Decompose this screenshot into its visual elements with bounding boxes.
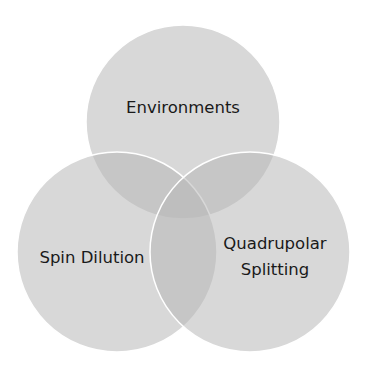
label-splitting: Splitting: [241, 260, 310, 279]
venn-diagram: Environments Spin Dilution Quadrupolar S…: [0, 0, 367, 370]
label-environments: Environments: [126, 98, 240, 117]
label-spin-dilution: Spin Dilution: [39, 248, 144, 267]
label-quadrupolar: Quadrupolar: [223, 234, 327, 253]
